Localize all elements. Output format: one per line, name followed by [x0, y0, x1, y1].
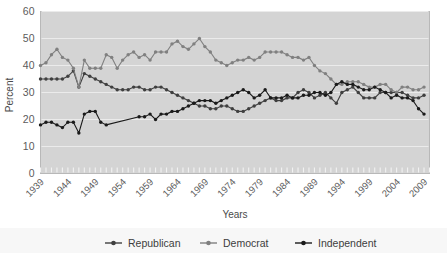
legend-marker: [301, 241, 306, 246]
data-point: [209, 99, 212, 102]
data-point: [192, 42, 195, 45]
y-tick-label: 50: [23, 32, 35, 44]
data-point: [198, 37, 201, 40]
data-point: [88, 110, 91, 113]
data-point: [346, 83, 349, 86]
data-point: [307, 56, 310, 59]
data-point: [247, 91, 250, 94]
data-point: [148, 58, 151, 61]
data-point: [154, 50, 157, 53]
data-point: [373, 85, 376, 88]
data-point: [165, 112, 168, 115]
data-point: [88, 67, 91, 70]
data-point: [83, 72, 86, 75]
data-point: [209, 107, 212, 110]
data-point: [126, 88, 129, 91]
data-point: [94, 110, 97, 113]
data-point: [362, 88, 365, 91]
data-point: [203, 99, 206, 102]
data-point: [307, 94, 310, 97]
data-point: [247, 107, 250, 110]
data-point: [252, 58, 255, 61]
data-point: [220, 99, 223, 102]
data-point: [389, 96, 392, 99]
data-point: [269, 50, 272, 53]
data-point: [181, 107, 184, 110]
y-tick-label: 40: [23, 59, 35, 71]
data-point: [66, 58, 69, 61]
data-point: [66, 121, 69, 124]
data-point: [116, 88, 119, 91]
data-point: [335, 83, 338, 86]
data-point: [99, 67, 102, 70]
data-point: [132, 50, 135, 53]
data-point: [203, 104, 206, 107]
data-point: [411, 88, 414, 91]
data-point: [236, 110, 239, 113]
data-point: [105, 123, 108, 126]
data-point: [165, 88, 168, 91]
data-point: [44, 121, 47, 124]
data-point: [417, 107, 420, 110]
data-point: [384, 91, 387, 94]
data-point: [83, 58, 86, 61]
data-point: [110, 56, 113, 59]
data-point: [296, 56, 299, 59]
data-point: [61, 56, 64, 59]
data-point: [66, 75, 69, 78]
data-point: [302, 58, 305, 61]
data-point: [378, 88, 381, 91]
y-tick-label: 30: [23, 86, 35, 98]
data-point: [351, 83, 354, 86]
data-point: [340, 91, 343, 94]
line-chart: 0102030405060 19391944194919541959196419…: [0, 0, 447, 253]
data-point: [280, 96, 283, 99]
data-point: [335, 102, 338, 105]
data-point: [329, 77, 332, 80]
chart-legend: RepublicanDemocratIndependent: [0, 228, 447, 253]
data-point: [50, 121, 53, 124]
data-point: [99, 121, 102, 124]
data-point: [346, 88, 349, 91]
data-point: [39, 77, 42, 80]
data-point: [384, 83, 387, 86]
data-point: [280, 50, 283, 53]
y-tick-label: 20: [23, 113, 35, 125]
data-point: [285, 94, 288, 97]
data-point: [99, 80, 102, 83]
data-point: [159, 50, 162, 53]
legend-label: Democrat: [223, 237, 269, 249]
data-point: [181, 96, 184, 99]
data-point: [400, 96, 403, 99]
data-point: [269, 96, 272, 99]
data-point: [400, 91, 403, 94]
data-point: [242, 58, 245, 61]
data-point: [137, 56, 140, 59]
data-point: [105, 83, 108, 86]
data-point: [143, 115, 146, 118]
data-point: [154, 118, 157, 121]
data-point: [368, 96, 371, 99]
data-point: [417, 96, 420, 99]
data-point: [313, 91, 316, 94]
data-point: [132, 85, 135, 88]
x-axis-title: Years: [222, 209, 247, 220]
data-point: [44, 77, 47, 80]
data-point: [50, 77, 53, 80]
data-point: [94, 77, 97, 80]
data-point: [422, 85, 425, 88]
data-point: [263, 99, 266, 102]
data-point: [389, 88, 392, 91]
data-point: [263, 50, 266, 53]
data-point: [291, 96, 294, 99]
data-point: [39, 64, 42, 67]
data-point: [329, 96, 332, 99]
data-point: [296, 91, 299, 94]
legend-label: Independent: [318, 237, 376, 249]
data-point: [231, 61, 234, 64]
data-point: [170, 42, 173, 45]
data-point: [83, 112, 86, 115]
data-point: [368, 88, 371, 91]
data-point: [170, 110, 173, 113]
data-point: [77, 85, 80, 88]
